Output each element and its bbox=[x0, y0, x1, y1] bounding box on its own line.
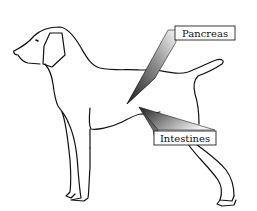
dog-front-leg-near bbox=[68, 122, 90, 201]
dog-ear-icon bbox=[43, 33, 65, 67]
dog-chest bbox=[45, 64, 68, 122]
intestines-pointer-face bbox=[139, 107, 215, 130]
pancreas-pointer bbox=[127, 30, 176, 104]
pancreas-label-text: Pancreas bbox=[182, 28, 228, 39]
pancreas-label: Pancreas bbox=[175, 26, 235, 40]
diagram-canvas: Pancreas Intestines bbox=[0, 0, 257, 211]
dog-anatomy-diagram: Pancreas Intestines bbox=[0, 0, 257, 211]
pancreas-pointer-face bbox=[127, 30, 176, 104]
intestines-label: Intestines bbox=[154, 131, 216, 145]
dog-rear-leg-near bbox=[196, 144, 234, 196]
dog-rump bbox=[156, 59, 223, 124]
dog-outline bbox=[14, 27, 236, 206]
dog-eye-icon bbox=[36, 40, 38, 41]
dog-snout bbox=[14, 51, 40, 64]
dog-elbow bbox=[89, 108, 142, 129]
dog-front-leg-far bbox=[62, 112, 75, 198]
intestines-label-text: Intestines bbox=[160, 133, 210, 144]
